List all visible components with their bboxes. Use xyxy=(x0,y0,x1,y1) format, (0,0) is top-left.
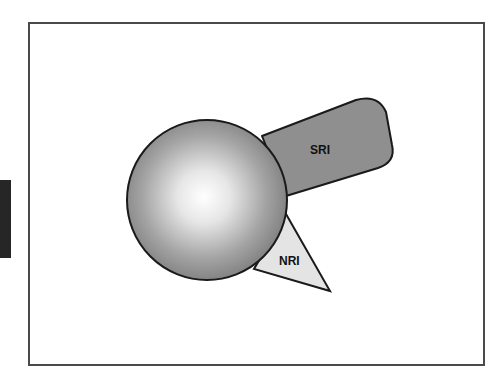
sphere-shape xyxy=(127,120,287,280)
nri-label: NRI xyxy=(279,254,300,268)
sri-label: SRI xyxy=(310,143,330,157)
diagram-canvas: SRI NRI xyxy=(0,0,497,386)
